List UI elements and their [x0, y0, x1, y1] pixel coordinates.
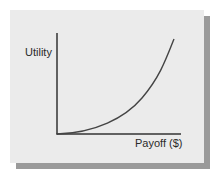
y-axis-label: Utility	[25, 46, 52, 58]
utility-curve	[57, 39, 174, 134]
x-axis-label: Payoff ($)	[135, 137, 183, 149]
utility-chart	[0, 0, 219, 175]
